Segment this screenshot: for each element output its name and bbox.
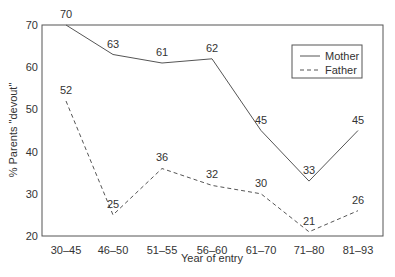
data-label: 52 — [60, 84, 72, 96]
data-label: 32 — [206, 168, 218, 180]
x-tick-label: 51–55 — [147, 244, 178, 256]
data-label: 70 — [60, 8, 72, 20]
legend-label-mother: Mother — [325, 50, 360, 62]
data-label: 63 — [107, 38, 119, 50]
line-chart: 203040506070 30–4546–5051–5556–6061–7071… — [0, 0, 395, 277]
y-tick-label: 20 — [26, 230, 38, 242]
legend-label-father: Father — [325, 64, 357, 76]
y-axis: 203040506070 — [26, 19, 38, 242]
data-label: 61 — [156, 46, 168, 58]
x-tick-label: 46–50 — [98, 244, 129, 256]
data-label: 26 — [352, 194, 364, 206]
legend: Mother Father — [292, 45, 362, 78]
data-label: 21 — [303, 215, 315, 227]
data-labels: 7063616245334552253632302126 — [60, 8, 364, 227]
data-label: 45 — [255, 114, 267, 126]
x-tick-label: 71–80 — [294, 244, 325, 256]
data-label: 45 — [352, 114, 364, 126]
data-label: 25 — [107, 198, 119, 210]
y-axis-label: % Parents "devout" — [7, 83, 19, 178]
data-label: 30 — [255, 177, 267, 189]
x-tick-label: 61–70 — [246, 244, 277, 256]
y-tick-label: 50 — [26, 103, 38, 115]
y-tick-label: 40 — [26, 146, 38, 158]
x-tick-label: 30–45 — [51, 244, 82, 256]
x-tick-label: 81–93 — [343, 244, 374, 256]
data-label: 33 — [303, 164, 315, 176]
x-axis-label: Year of entry — [181, 252, 243, 264]
data-label: 36 — [156, 151, 168, 163]
y-tick-label: 60 — [26, 61, 38, 73]
y-tick-label: 70 — [26, 19, 38, 31]
y-tick-label: 30 — [26, 188, 38, 200]
data-label: 62 — [206, 42, 218, 54]
